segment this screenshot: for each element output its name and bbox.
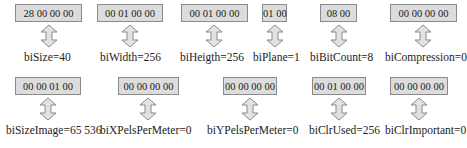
double-arrow-icon [330, 97, 348, 121]
byte-box: 00 00 00 00 [390, 4, 457, 22]
byte-box: 28 00 00 00 [15, 4, 82, 22]
field-label: biSize=40 [24, 51, 71, 63]
byte-box: 00 00 01 00 [15, 77, 81, 95]
byte-box: 00 00 00 00 [118, 77, 179, 95]
field-label: biYPelsPerMeter=0 [207, 124, 298, 136]
field-label: biCompression=0 [385, 51, 467, 63]
field-label: biBitCount=8 [310, 51, 373, 63]
double-arrow-icon [40, 24, 58, 48]
double-arrow-icon [266, 24, 284, 48]
byte-box: 00 00 00 00 [390, 77, 448, 95]
byte-box: 08 00 [320, 4, 357, 22]
double-arrow-icon [414, 24, 432, 48]
double-arrow-icon [410, 97, 428, 121]
double-arrow-icon [330, 24, 348, 48]
field-label: biHeigth=256 [180, 51, 244, 63]
field-label: biWidth=256 [100, 51, 161, 63]
field-label: biXPelsPerMeter=0 [100, 124, 191, 136]
double-arrow-icon [39, 97, 57, 121]
field-label: biPlane=1 [253, 51, 300, 63]
field-label: biSizeImage=65 536 [6, 124, 102, 136]
double-arrow-icon [139, 97, 157, 121]
byte-box: 01 00 [262, 4, 287, 22]
field-label: biClrImportant=0 [385, 124, 466, 136]
double-arrow-icon [205, 24, 223, 48]
byte-box: 00 01 00 00 [97, 4, 163, 22]
field-label: biClrUsed=256 [309, 124, 380, 136]
double-arrow-icon [121, 24, 139, 48]
double-arrow-icon [241, 97, 259, 121]
byte-box: 00 01 00 00 [181, 4, 248, 22]
byte-box: 00 00 00 00 [223, 77, 277, 95]
byte-box: 00 01 00 00 [312, 77, 366, 95]
